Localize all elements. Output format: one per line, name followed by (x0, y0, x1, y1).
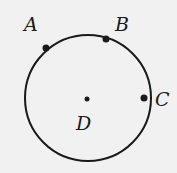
point-c-label: C (155, 88, 170, 110)
point-d-label: D (75, 112, 91, 134)
point-b-label: B (114, 13, 129, 35)
point-a-label: A (22, 13, 38, 35)
point-d-dot (85, 97, 90, 102)
point-a-dot (43, 45, 50, 52)
point-c-dot (141, 95, 148, 102)
circle-diagram: A B C D (0, 0, 177, 173)
point-b-dot (103, 36, 110, 43)
